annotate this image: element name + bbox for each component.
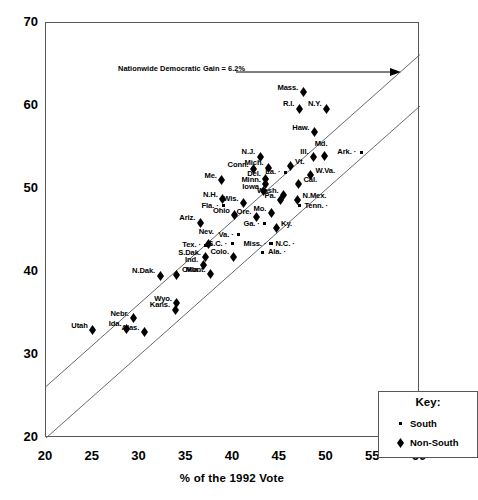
- data-point-label: Kans.: [150, 301, 170, 309]
- data-point-label: Ore.: [237, 208, 252, 216]
- data-point-label: N.Mex.: [303, 192, 327, 200]
- plot-area: Nationwide Democratic Gain = 6.2% Mass.R…: [45, 22, 419, 437]
- nonsouth-diamond-marker: [173, 266, 180, 284]
- x-tick-label-25: 25: [72, 449, 112, 462]
- gain-annotation-label: Nationwide Democratic Gain = 6.2%: [118, 64, 245, 73]
- data-point-label: Ky.: [281, 220, 292, 228]
- data-point-label: Ind.: [185, 256, 198, 264]
- legend-entry-nonsouth: Non-South: [393, 436, 459, 448]
- south-dot-marker: [261, 251, 264, 254]
- x-tick-label-50: 50: [306, 449, 346, 462]
- data-point-label: Cal.: [303, 176, 317, 184]
- data-point-label: Ohio: [213, 207, 230, 215]
- x-tick-label-35: 35: [165, 449, 205, 462]
- data-point-label: Utah: [71, 322, 87, 330]
- south-dot-icon: [393, 418, 407, 429]
- nonsouth-diamond-marker: [207, 265, 214, 283]
- y-tick-label-50: 50: [4, 181, 38, 194]
- parity-line: [46, 106, 420, 438]
- data-point-label: N.Y.: [308, 100, 322, 108]
- south-dot-marker: [298, 204, 301, 207]
- data-point-label: W.Va.: [316, 167, 335, 175]
- data-point-label: Pa.: [265, 192, 276, 200]
- y-tick-label-60: 60: [4, 98, 38, 111]
- y-tick-label-40: 40: [4, 264, 38, 277]
- nonsouth-diamond-marker: [323, 100, 330, 118]
- south-dot-marker: [263, 222, 266, 225]
- south-dot-marker: [269, 242, 272, 245]
- data-point-label: Me.: [204, 172, 216, 180]
- nonsouth-diamond-marker: [218, 171, 225, 189]
- x-tick-label-30: 30: [119, 449, 159, 462]
- nonsouth-diamond-marker: [277, 191, 284, 209]
- nonsouth-diamond-marker: [157, 267, 164, 285]
- data-point-label: Conn.: [228, 161, 249, 169]
- south-dot-marker: [231, 242, 234, 245]
- data-point-label: Vt.: [295, 158, 304, 166]
- nonsouth-diamond-marker: [273, 219, 280, 237]
- data-point-label: Nev.: [199, 228, 214, 236]
- nonsouth-diamond-marker: [141, 323, 148, 341]
- nonsouth-diamond-marker: [231, 206, 238, 224]
- data-point-label: Nebr.: [110, 310, 129, 318]
- nonsouth-diamond-marker: [89, 321, 96, 339]
- data-point-label: Md.: [315, 140, 328, 148]
- x-tick-label-20: 20: [25, 449, 65, 462]
- data-point-label: Alas.: [122, 324, 140, 332]
- nonsouth-diamond-marker: [230, 248, 237, 266]
- data-point-label: Okla.: [182, 266, 200, 274]
- nonsouth-diamond-marker: [300, 83, 307, 101]
- nonsouth-diamond-marker: [310, 148, 317, 166]
- legend-entry-south: South: [393, 417, 437, 429]
- data-point-label: Iowa: [242, 183, 258, 191]
- data-point-label: Ida.: [109, 320, 122, 328]
- data-point-label: Ill.: [300, 148, 308, 156]
- data-point-label: Ariz.: [179, 214, 195, 222]
- data-point-label: Tenn. ·: [304, 202, 328, 210]
- south-dot-marker: [204, 244, 207, 247]
- legend-label-south: South: [407, 418, 437, 429]
- nonsouth-diamond-marker: [287, 157, 294, 175]
- data-point-label: N.H.: [203, 191, 218, 199]
- data-point-label: Miss. ·: [243, 240, 266, 248]
- south-dot-marker: [360, 151, 363, 154]
- nonsouth-diamond-marker: [321, 147, 328, 165]
- x-axis-title: % of the 1992 Vote: [45, 472, 419, 484]
- data-point-label: Colo.: [210, 248, 228, 256]
- y-tick-label-70: 70: [4, 15, 38, 28]
- data-point-label: Haw.: [292, 124, 309, 132]
- nonsouth-diamond-marker: [172, 301, 179, 319]
- gain-arrow-icon: [236, 66, 401, 78]
- data-point-label: Ark. ·: [337, 148, 356, 156]
- data-point-label: Ala. ·: [268, 248, 286, 256]
- data-point-label: N.Dak.: [132, 267, 155, 275]
- data-point-label: Va. ·: [218, 231, 233, 239]
- nonsouth-diamond-marker: [296, 100, 303, 118]
- x-tick-label-45: 45: [259, 449, 299, 462]
- data-point-label: R.I.: [283, 100, 294, 108]
- y-tick-label-20: 20: [4, 430, 38, 443]
- legend-title: Key:: [379, 396, 477, 408]
- x-tick-label-40: 40: [212, 449, 252, 462]
- y-tick-label-30: 30: [4, 347, 38, 360]
- data-point-label: N.J.: [242, 148, 256, 156]
- legend-key-box: Key: South Non-South: [378, 391, 478, 458]
- south-dot-marker: [237, 233, 240, 236]
- nonsouth-diamond-icon: [393, 437, 407, 448]
- data-point-label: Ga. ·: [243, 220, 259, 228]
- south-dot-marker: [284, 171, 287, 174]
- legend-label-nonsouth: Non-South: [407, 437, 459, 448]
- data-point-label: Mass.: [278, 84, 299, 92]
